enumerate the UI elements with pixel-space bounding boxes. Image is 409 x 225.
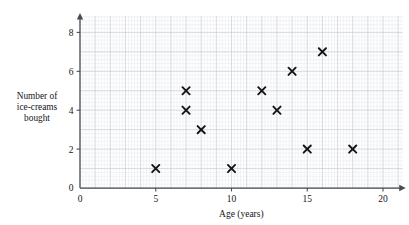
x-tick-label: 15: [303, 194, 313, 204]
y-axis-title: Number ofice-creamsbought: [17, 91, 58, 123]
y-tick-label: 2: [69, 145, 74, 155]
x-axis-title: Age (years): [219, 209, 264, 220]
x-tick-label: 10: [227, 194, 237, 204]
y-tick-label: 4: [69, 106, 74, 116]
x-axis-tick-labels: 05101520: [78, 194, 388, 204]
grid-minor-lines: [80, 16, 403, 188]
x-tick-label: 0: [78, 194, 83, 204]
y-tick-label: 8: [69, 28, 74, 38]
chart-canvas: 05101520 02468 Number ofice-creamsbought…: [0, 0, 409, 225]
x-tick-label: 5: [153, 194, 158, 204]
y-tick-label: 6: [69, 67, 74, 77]
y-axis-title-line: Number of: [17, 91, 58, 101]
y-tick-label: 0: [69, 183, 74, 193]
y-axis-title-line: bought: [24, 113, 50, 123]
y-axis-title-line: ice-creams: [17, 102, 58, 112]
y-axis-tick-labels: 02468: [69, 28, 74, 194]
scatter-chart: 05101520 02468 Number ofice-creamsbought…: [0, 0, 409, 225]
x-tick-label: 20: [378, 194, 388, 204]
